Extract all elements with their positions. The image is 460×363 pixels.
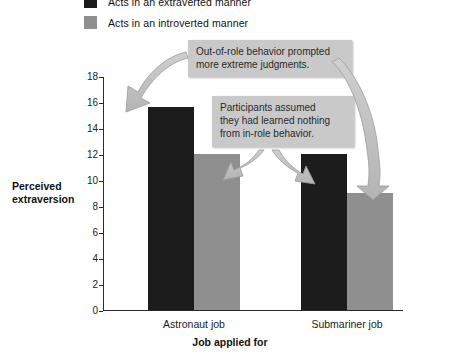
y-axis-title: Perceived extraversion bbox=[12, 180, 90, 206]
legend-item-extraverted: Acts in an extraverted manner bbox=[84, 0, 251, 12]
bar-submariner-job-introverted[interactable] bbox=[347, 193, 393, 310]
bar-submariner-job-extraverted[interactable] bbox=[301, 154, 347, 310]
y-tick-mark bbox=[99, 259, 103, 260]
y-tick-label: 12 bbox=[87, 150, 98, 160]
legend-item-introverted: Acts in an introverted manner bbox=[84, 12, 251, 33]
x-axis-title: Job applied for bbox=[0, 336, 460, 348]
y-tick-mark bbox=[99, 311, 103, 312]
y-tick-mark bbox=[99, 233, 103, 234]
legend-swatch-introverted bbox=[84, 16, 97, 29]
bar-astronaut-job-introverted[interactable] bbox=[194, 154, 240, 310]
y-tick-label: 16 bbox=[87, 98, 98, 108]
x-axis-line bbox=[103, 310, 403, 311]
y-tick-label: 14 bbox=[87, 124, 98, 134]
x-category-label-submariner-job: Submariner job bbox=[311, 318, 382, 330]
y-tick-mark bbox=[99, 77, 103, 78]
x-category-label-astronaut-job: Astronaut job bbox=[163, 318, 225, 330]
legend-label-extraverted: Acts in an extraverted manner bbox=[108, 0, 251, 8]
legend-swatch-extraverted bbox=[84, 0, 97, 8]
y-tick-mark bbox=[99, 285, 103, 286]
y-tick-label: 6 bbox=[92, 228, 98, 238]
y-tick-label: 18 bbox=[87, 72, 98, 82]
y-tick-mark bbox=[99, 129, 103, 130]
chart-legend: Acts in an extraverted manner Acts in an… bbox=[84, 0, 251, 33]
y-tick-label: 10 bbox=[87, 176, 98, 186]
annotation-callout-out-of-role: Out-of-role behavior prompted more extre… bbox=[188, 40, 352, 77]
y-tick-mark bbox=[99, 207, 103, 208]
y-tick-label: 2 bbox=[92, 280, 98, 290]
bar-astronaut-job-extraverted[interactable] bbox=[148, 107, 194, 310]
y-tick-label: 0 bbox=[92, 306, 98, 316]
y-tick-mark bbox=[99, 155, 103, 156]
y-tick-label: 8 bbox=[92, 202, 98, 212]
annotation-callout-in-role: Participants assumed they had learned no… bbox=[212, 96, 354, 147]
y-tick-mark bbox=[99, 181, 103, 182]
y-tick-mark bbox=[99, 103, 103, 104]
y-tick-label: 4 bbox=[92, 254, 98, 264]
legend-label-introverted: Acts in an introverted manner bbox=[108, 17, 248, 29]
y-axis-line bbox=[103, 77, 104, 311]
